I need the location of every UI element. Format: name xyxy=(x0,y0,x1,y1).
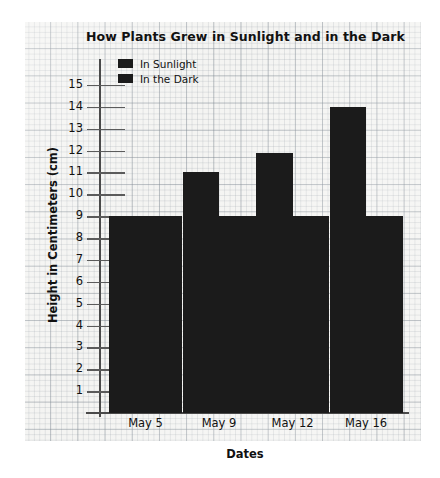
bar xyxy=(366,216,403,413)
plot-area: 151413121110987654321 May 5May 9May 12Ma… xyxy=(100,63,400,413)
x-axis-label: Dates xyxy=(100,447,390,461)
y-tick-label: 5 xyxy=(55,296,83,310)
y-tick-label: 11 xyxy=(55,164,83,178)
y-tick-label: 13 xyxy=(55,121,83,135)
bar xyxy=(293,216,330,413)
y-tick-label: 7 xyxy=(55,252,83,266)
y-tick xyxy=(87,85,125,87)
y-tick-label: 2 xyxy=(55,361,83,375)
y-tick xyxy=(87,194,125,196)
y-tick xyxy=(87,172,125,174)
bar xyxy=(146,216,183,413)
x-tick-label: May 9 xyxy=(183,416,256,430)
y-tick xyxy=(87,107,125,109)
y-tick-label: 14 xyxy=(55,99,83,113)
y-tick-label: 6 xyxy=(55,274,83,288)
y-tick-label: 15 xyxy=(55,77,83,91)
y-tick xyxy=(87,151,125,153)
bar xyxy=(109,216,146,413)
x-tick-label: May 5 xyxy=(109,416,182,430)
chart-page: How Plants Grew in Sunlight and in the D… xyxy=(0,0,440,478)
bar xyxy=(256,153,293,413)
y-tick xyxy=(87,129,125,131)
bar xyxy=(183,172,220,413)
x-tick-label: May 16 xyxy=(330,416,403,430)
y-tick-label: 9 xyxy=(55,208,83,222)
chart-title: How Plants Grew in Sunlight and in the D… xyxy=(86,29,426,44)
y-tick-label: 8 xyxy=(55,230,83,244)
bar xyxy=(219,216,256,413)
y-tick-label: 12 xyxy=(55,143,83,157)
y-tick-label: 1 xyxy=(55,383,83,397)
x-tick-label: May 12 xyxy=(256,416,329,430)
y-tick-label: 4 xyxy=(55,318,83,332)
y-tick-label: 3 xyxy=(55,339,83,353)
bar xyxy=(330,107,367,413)
y-tick-label: 10 xyxy=(55,186,83,200)
